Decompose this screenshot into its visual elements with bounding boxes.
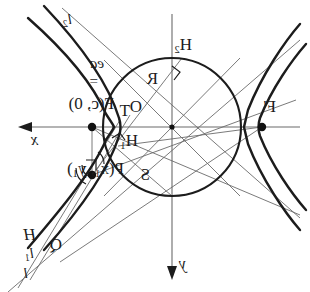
- construction-lines: [8, 8, 300, 292]
- point-dot-P: [88, 171, 96, 179]
- axes-group: [24, 14, 300, 272]
- construction-line-l1: [30, 115, 130, 280]
- point-dot-O: [169, 124, 174, 129]
- hyperbola-right-lower: [244, 127, 300, 230]
- geometry-figure: O F(c, 0) F' P(x1, y1) H1 H2 R S T Q H l…: [0, 0, 310, 292]
- y-axis-arrowhead: [167, 266, 177, 280]
- x-axis-arrowhead: [18, 122, 32, 132]
- construction-line-diagonal-a: [8, 40, 300, 292]
- point-dot-F: [88, 123, 96, 131]
- point-dot-Fprime: [258, 123, 266, 131]
- hyperbola-left-lower: [28, 127, 114, 248]
- right-angle-mark-H2: [172, 66, 180, 80]
- hyperbola-left-upper: [28, 18, 114, 127]
- figure-drawing: [0, 0, 310, 292]
- segment-P-to-H2: [92, 58, 182, 175]
- hyperbola-right-upper: [244, 24, 300, 127]
- construction-line-l2: [62, 8, 300, 218]
